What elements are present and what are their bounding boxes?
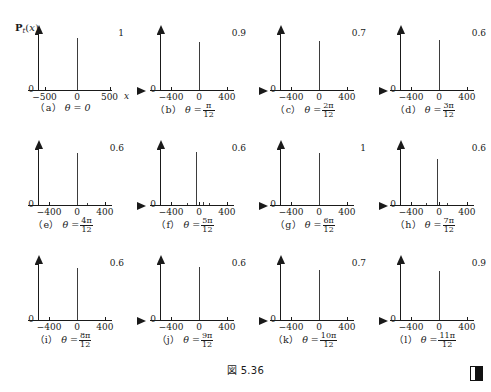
x-tick (227, 87, 228, 91)
panel-caption-l: （l） θ =11π12 (364, 332, 486, 350)
axes-c: 0.70−4000400 (244, 18, 366, 96)
x-tick (347, 202, 348, 206)
y-axis-arrow-icon (277, 255, 285, 264)
fraction-denominator: 12 (443, 226, 455, 234)
x-tick (171, 317, 172, 321)
chart-panel-h: 0.60−4000400（h） θ =7π12 (364, 133, 486, 248)
fraction-denominator: 12 (323, 226, 335, 234)
y-tick-top (35, 34, 39, 35)
y-tick-top (277, 34, 281, 35)
data-spike (77, 38, 78, 90)
y-axis-arrow-icon (277, 140, 285, 149)
y-tick-label-max: 0.9 (214, 28, 246, 38)
data-spike (209, 203, 210, 205)
panel-caption-f: （f） θ =5π12 (124, 217, 246, 235)
x-tick (227, 317, 228, 321)
y-tick-label-max: 0.6 (454, 143, 486, 153)
panel-caption-i: （i） θ =8π12 (2, 332, 124, 350)
x-axis-line (28, 205, 112, 206)
x-tick (291, 87, 292, 91)
y-axis-line (160, 147, 161, 205)
panel-row: 10−5000500x（a） θ = 00.90−4000400（b） θ =π… (0, 18, 491, 133)
x-axis-line (150, 205, 234, 206)
x-axis-line (150, 320, 234, 321)
x-tick (439, 202, 440, 206)
x-axis-line (270, 320, 354, 321)
data-spike (437, 159, 438, 205)
x-tick (347, 87, 348, 91)
x-tick (411, 317, 412, 321)
panel-tag: （f） (156, 219, 180, 230)
axes-d: 0.60−4000400 (364, 18, 486, 96)
y-axis-arrow-icon (397, 255, 405, 264)
panel-tag: （j） (157, 334, 181, 345)
x-tick (199, 202, 200, 206)
y-axis-line (160, 262, 161, 320)
chart-panel-a: 10−5000500x（a） θ = 0 (2, 18, 124, 133)
fraction-denominator: 12 (80, 226, 92, 234)
panel-caption-d: （d） θ =3π12 (364, 102, 486, 120)
axes-a: 10−5000500x (2, 18, 124, 96)
x-tick (49, 202, 50, 206)
y-tick-top (397, 264, 401, 265)
x-tick (110, 87, 111, 91)
y-axis-line (38, 147, 39, 205)
data-spike (196, 152, 197, 205)
x-tick (291, 317, 292, 321)
x-tick (171, 202, 172, 206)
y-axis-line (280, 32, 281, 90)
panel-caption-h: （h） θ =7π12 (364, 217, 486, 235)
data-spike (319, 41, 320, 90)
panel-tag: （d） (395, 104, 422, 115)
fraction-denominator: 12 (201, 226, 213, 234)
axes-k: 0.70−4000400 (244, 248, 366, 326)
y-tick-top (35, 264, 39, 265)
y-tick-top (397, 34, 401, 35)
y-tick-top (397, 149, 401, 150)
panel-tag: （l） (394, 334, 418, 345)
y-tick-label-max: 1 (334, 143, 366, 153)
data-spike (187, 203, 188, 205)
y-axis-line (38, 262, 39, 320)
y-tick-label-max: 0.6 (214, 143, 246, 153)
data-spike (439, 40, 440, 90)
x-axis-line (150, 90, 234, 91)
fraction-denominator: 12 (201, 341, 213, 349)
panel-theta-label: θ = (425, 219, 442, 230)
theta-fraction: π12 (203, 102, 215, 120)
figure-caption: 図 5.36 (0, 362, 491, 377)
y-axis-arrow-icon (157, 140, 165, 149)
y-tick-top (157, 264, 161, 265)
y-tick-label-max: 0.6 (214, 258, 246, 268)
panel-caption-a: （a） θ = 0 (2, 102, 124, 114)
chart-panel-c: 0.70−4000400（c） θ =2π12 (244, 18, 366, 133)
fraction-denominator: 12 (79, 341, 91, 349)
data-spike (203, 202, 204, 205)
theta-fraction: 2π12 (322, 102, 334, 120)
theta-fraction: 6π12 (323, 217, 335, 235)
panel-caption-b: （b） θ =π12 (124, 102, 246, 120)
x-tick (411, 87, 412, 91)
x-axis-line (390, 320, 474, 321)
y-tick-label-max: 0.6 (92, 143, 124, 153)
chart-panel-d: 0.60−4000400（d） θ =3π12 (364, 18, 486, 133)
chart-panel-e: 0.60−4000400（e） θ =4π12 (2, 133, 124, 248)
x-axis-line (28, 320, 112, 321)
panel-tag: （h） (395, 219, 422, 230)
fraction-denominator: 12 (322, 111, 334, 119)
x-tick (467, 317, 468, 321)
y-tick-top (277, 264, 281, 265)
panel-caption-j: （j） θ =9π12 (124, 332, 246, 350)
x-tick (49, 317, 50, 321)
axes-f: 0.60−4000400 (124, 133, 246, 211)
data-spike (426, 203, 427, 205)
y-tick-top (157, 149, 161, 150)
y-axis-line (280, 262, 281, 320)
y-tick-label-max: 0.9 (454, 258, 486, 268)
y-tick-top (35, 149, 39, 150)
y-tick-label-max: 1 (92, 28, 124, 38)
end-of-proof-marker (470, 366, 483, 381)
panel-tag: （c） (275, 104, 301, 115)
panel-theta-label: θ = (421, 334, 438, 345)
chart-panel-g: 10−4000400（g） θ =6π12 (244, 133, 366, 248)
